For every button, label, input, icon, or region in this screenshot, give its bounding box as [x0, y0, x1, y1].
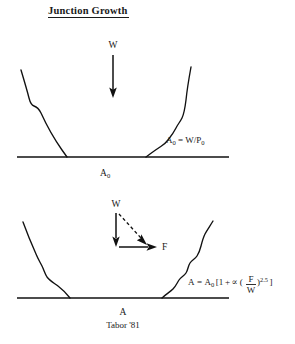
bottom-eq-fraction-numerator: F	[248, 274, 253, 284]
figure-title-group: Junction Growth	[48, 5, 129, 18]
bottom-area-label: A	[120, 307, 127, 317]
junction-growth-figure: Junction Growth W A0=W/P0	[0, 0, 295, 344]
top-eq-equals: =	[178, 135, 183, 145]
top-load-label: W	[109, 40, 118, 50]
bottom-shear-label: F	[162, 242, 167, 252]
bottom-eq-fraction-denominator: W	[247, 285, 256, 295]
bottom-eq-lhs: A	[188, 277, 195, 287]
top-equation: A0=W/P0	[166, 135, 205, 146]
bottom-eq-bracket-close: ]	[269, 277, 272, 287]
figure-title: Junction Growth	[48, 5, 128, 16]
diagram-canvas: Junction Growth W A0=W/P0	[0, 0, 295, 344]
figure-caption: Tabor '81	[106, 320, 140, 330]
bottom-eq-one: 1	[219, 277, 224, 287]
bottom-eq-equals: =	[197, 277, 202, 287]
bottom-eq-alpha: ∝	[232, 277, 238, 287]
bottom-equation: A=A0[1+∝(	[188, 277, 243, 288]
top-equation-group: A0=W/P0	[166, 135, 205, 146]
bottom-eq-paren-open: (	[240, 277, 243, 287]
bottom-load-label: W	[112, 199, 121, 209]
bottom-eq-exponent: 2.5	[260, 276, 268, 283]
bottom-eq-plus: +	[225, 277, 230, 287]
